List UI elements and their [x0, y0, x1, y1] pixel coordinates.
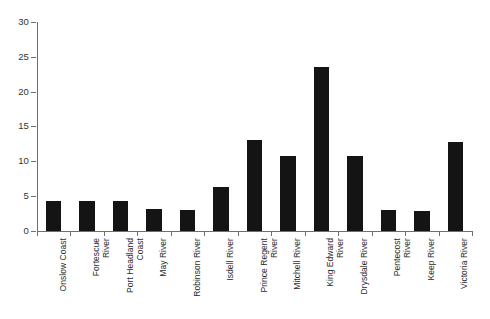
- x-axis-tick: [405, 231, 406, 236]
- y-axis-tick: [31, 161, 36, 162]
- x-axis-category-label: Robinson River: [193, 238, 203, 318]
- y-axis-tick-label: 5: [3, 191, 29, 201]
- bar-chart: 051015202530 Onslow CoastFortescue River…: [0, 0, 490, 319]
- x-axis-tick: [104, 231, 105, 236]
- x-axis-tick: [338, 231, 339, 236]
- x-axis-category-label: King Edward River: [326, 238, 345, 318]
- x-axis-tick: [137, 231, 138, 236]
- x-axis-tick: [271, 231, 272, 236]
- y-axis-tick-label: 30: [3, 17, 29, 27]
- y-axis-tick: [31, 196, 36, 197]
- x-axis-category-label: Keep River: [427, 238, 437, 318]
- y-axis-tick-label: 15: [3, 121, 29, 131]
- bar: [347, 156, 363, 230]
- y-axis-tick-label: 20: [3, 87, 29, 97]
- y-axis-tick-label: 10: [3, 156, 29, 166]
- bar: [381, 210, 397, 230]
- y-axis-tick-labels: 051015202530: [0, 0, 29, 319]
- y-axis-tick: [31, 231, 36, 232]
- y-axis-tick-label: 25: [3, 52, 29, 62]
- x-axis-category-label: Isdell River: [226, 238, 236, 318]
- x-axis-category-label: Port Headland Coast: [126, 238, 145, 318]
- x-axis-category-label: Fortescue River: [92, 238, 111, 318]
- x-axis-tick: [171, 231, 172, 236]
- x-axis-category-label: Prince Regent River: [260, 238, 279, 318]
- bar: [314, 67, 330, 230]
- x-axis-tick: [305, 231, 306, 236]
- bar: [180, 210, 196, 231]
- x-axis-category-label: Onslow Coast: [59, 238, 69, 318]
- x-axis-tick: [439, 231, 440, 236]
- bar: [79, 201, 95, 231]
- x-axis-tick: [372, 231, 373, 236]
- x-axis-category-label: Mitchell River: [293, 238, 303, 318]
- x-axis-category-labels: Onslow CoastFortescue RiverPort Headland…: [37, 238, 472, 319]
- x-axis-category-label: Pentecost River: [393, 238, 412, 318]
- plot-area: [37, 22, 472, 231]
- y-axis-tick: [31, 92, 36, 93]
- x-axis-tick: [70, 231, 71, 236]
- x-axis-tick: [204, 231, 205, 236]
- y-axis-tick-label: 0: [3, 226, 29, 236]
- bar: [280, 156, 296, 230]
- x-axis-category-label: Victoria River: [460, 238, 470, 318]
- x-axis-line: [37, 231, 473, 232]
- x-axis-tick: [37, 231, 38, 236]
- y-axis-tick: [31, 126, 36, 127]
- x-axis-category-label: Drysdale River: [360, 238, 370, 318]
- bar: [213, 187, 229, 231]
- y-axis-tick: [31, 57, 36, 58]
- y-axis-tick: [31, 22, 36, 23]
- bar: [146, 209, 162, 231]
- x-axis-tick: [472, 231, 473, 236]
- bar: [448, 142, 464, 230]
- bar: [113, 201, 129, 231]
- bar: [247, 140, 263, 230]
- bar: [46, 201, 62, 231]
- x-axis-category-label: May River: [159, 238, 169, 318]
- x-axis-tick: [238, 231, 239, 236]
- bar: [414, 211, 430, 230]
